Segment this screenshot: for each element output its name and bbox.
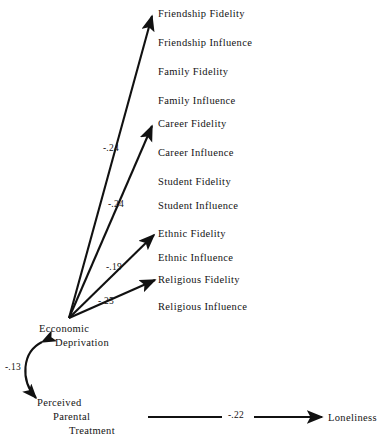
node-loneliness: Loneliness <box>328 411 377 424</box>
node-perceived-parental-treatment-line2: Parental <box>37 410 115 424</box>
path-arrow-career-fidelity <box>69 126 152 318</box>
coefficient-friendship-fidelity: -.24 <box>103 143 119 153</box>
outcome-label-family-fidelity: Family Fidelity <box>158 65 228 78</box>
coefficient-loneliness: -.22 <box>228 410 244 420</box>
path-diagram: Friendship Fidelity Friendship Influence… <box>0 0 381 446</box>
outcome-label-religious-influence: Religious Influence <box>158 300 247 313</box>
outcome-label-ethnic-fidelity: Ethnic Fidelity <box>158 227 226 240</box>
outcome-label-student-influence: Student Influence <box>158 199 238 212</box>
coefficient-religious-fidelity: -.25 <box>98 296 114 306</box>
outcome-label-ethnic-influence: Ethnic Influence <box>158 251 233 264</box>
node-ecconomic-deprivation: Ecconomic Deprivation <box>39 322 109 350</box>
outcome-label-friendship-influence: Friendship Influence <box>158 36 252 49</box>
node-ecconomic-deprivation-line1: Ecconomic <box>39 322 109 336</box>
path-arrow-friendship-fidelity <box>69 16 152 318</box>
outcome-label-career-fidelity: Career Fidelity <box>158 117 227 130</box>
outcome-label-religious-fidelity: Religious Fidelity <box>158 273 240 286</box>
coefficient-ethnic-fidelity: -.19 <box>106 262 122 272</box>
node-perceived-parental-treatment-line3: Treatment <box>37 424 115 438</box>
outcome-label-family-influence: Family Influence <box>158 94 236 107</box>
outcome-label-career-influence: Career Influence <box>158 146 234 159</box>
coefficient-career-fidelity: -.24 <box>108 199 124 209</box>
outcome-label-friendship-fidelity: Friendship Fidelity <box>158 7 245 20</box>
node-perceived-parental-treatment: Perceived Parental Treatment <box>37 396 115 438</box>
node-ecconomic-deprivation-line2: Deprivation <box>39 336 109 350</box>
coefficient-correlation: -.13 <box>5 362 21 372</box>
node-perceived-parental-treatment-line1: Perceived <box>37 396 115 410</box>
outcome-label-student-fidelity: Student Fidelity <box>158 175 231 188</box>
correlation-arrow-deprivation-treatment <box>25 342 42 398</box>
